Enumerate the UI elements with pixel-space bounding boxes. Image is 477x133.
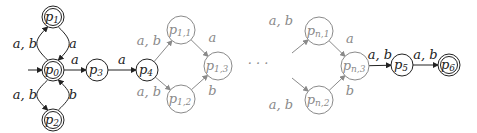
transition-arrow: [58, 80, 69, 110]
automaton-svg: p0p1p2p3p4p1,1p1,2p1,3pn,1pn,2pn,3p5p6 a…: [0, 0, 477, 133]
state-pn1: pn,1: [305, 17, 333, 45]
state-p0: p0: [42, 59, 64, 81]
transition-arrow: [329, 41, 345, 56]
edge-label: a, b: [13, 36, 37, 51]
state-p5: p5: [391, 54, 413, 76]
edge-label: a: [346, 31, 354, 46]
edge-label: b: [69, 87, 77, 102]
state-pn3: pn,3: [341, 52, 369, 80]
edge-label: a, b: [368, 47, 392, 62]
edge-label: b: [346, 83, 354, 98]
state-p13: p1,3: [204, 52, 232, 80]
transition-arrow: [37, 27, 48, 60]
ellipsis: · · ·: [248, 56, 269, 71]
edge-label: a, b: [137, 84, 161, 99]
transition-arrow: [329, 76, 345, 91]
state-p2: p2: [42, 109, 64, 131]
state-p12: p1,2: [167, 85, 195, 113]
transition-arrow: [58, 27, 69, 60]
state-p6: p6: [438, 54, 460, 76]
state-pn2: pn,2: [305, 86, 333, 114]
transition-arrow: [191, 75, 207, 89]
edge-label: a: [71, 52, 79, 67]
edge-label: a, b: [13, 87, 37, 102]
state-p1: p1: [42, 6, 64, 28]
edge-label: a: [69, 36, 77, 51]
transition-arrow: [292, 40, 308, 53]
automaton-diagram: p0p1p2p3p4p1,1p1,2p1,3pn,1pn,2pn,3p5p6 a…: [0, 0, 477, 133]
edge-label: a: [118, 52, 126, 67]
transition-arrow: [292, 78, 308, 91]
transition-arrow: [37, 80, 48, 110]
transition-arrow: [191, 40, 208, 56]
state-p3: p3: [86, 59, 108, 81]
edge-label: a, b: [269, 13, 293, 28]
state-p11: p1,1: [167, 16, 195, 44]
state-p4: p4: [136, 59, 158, 81]
edge-label: a, b: [413, 47, 437, 62]
edge-label: a: [209, 30, 217, 45]
edge-label: b: [208, 83, 216, 98]
edge-label: a, b: [269, 97, 293, 112]
edge-label: a, b: [137, 33, 161, 48]
